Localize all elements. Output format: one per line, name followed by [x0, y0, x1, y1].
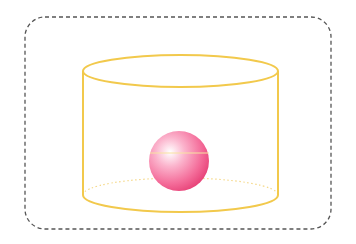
dashed-frame — [25, 17, 331, 229]
cylinder-top-ellipse — [83, 55, 278, 87]
cylinder-bottom-front-arc — [83, 195, 278, 212]
sphere-in-cylinder-diagram — [0, 0, 356, 244]
sphere — [149, 131, 209, 191]
